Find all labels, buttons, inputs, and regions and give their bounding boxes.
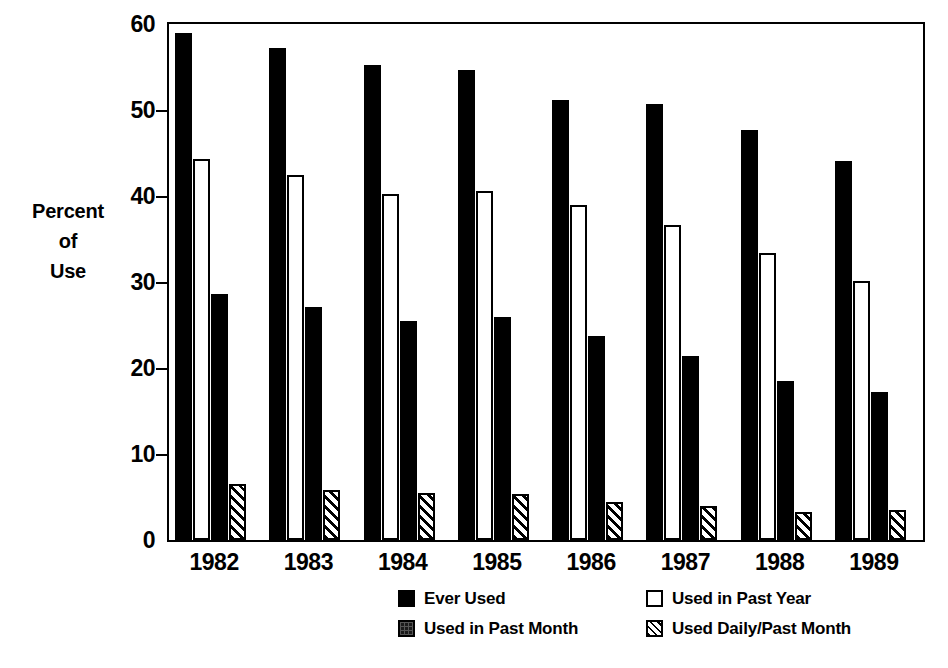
plot-inner xyxy=(169,24,923,540)
bar-1989-ever-used xyxy=(835,161,852,540)
y-axis-label-40: 40 xyxy=(85,185,155,208)
y-axis-label-0: 0 xyxy=(85,529,155,552)
bar-1989-used-in-past-month xyxy=(871,392,888,540)
legend-swatch-icon xyxy=(398,620,415,637)
y-axis-tick-40 xyxy=(156,196,169,198)
legend-swatch-icon xyxy=(398,590,415,607)
bar-1982-used-daily-past-month xyxy=(229,484,246,540)
x-axis-label-1983: 1983 xyxy=(261,548,355,576)
bar-1984-used-in-past-month xyxy=(400,321,417,540)
bar-group-1984 xyxy=(364,24,435,540)
bar-group-1989 xyxy=(835,24,906,540)
bar-1985-used-in-past-month xyxy=(494,317,511,540)
legend-label: Used Daily/Past Month xyxy=(672,620,851,637)
bar-1983-used-daily-past-month xyxy=(323,490,340,540)
bar-1987-used-in-past-month xyxy=(682,356,699,540)
bar-group-1987 xyxy=(646,24,717,540)
y-axis-tick-labels: 0102030405060 xyxy=(79,22,155,542)
y-axis-label-50: 50 xyxy=(85,99,155,122)
y-axis-tick-20 xyxy=(156,368,169,370)
bar-1984-used-in-past-year xyxy=(382,194,399,540)
legend-swatch-icon xyxy=(646,590,663,607)
x-axis-label-1989: 1989 xyxy=(827,548,921,576)
bar-1986-used-in-past-month xyxy=(588,336,605,540)
chart-legend: Ever UsedUsed in Past MonthUsed in Past … xyxy=(398,590,918,652)
y-axis-label-20: 20 xyxy=(85,357,155,380)
bar-group-1985 xyxy=(458,24,529,540)
bar-1983-used-in-past-month xyxy=(305,307,322,540)
bar-1983-ever-used xyxy=(269,48,286,540)
bar-1988-used-in-past-year xyxy=(759,253,776,540)
bar-1984-used-daily-past-month xyxy=(418,493,435,540)
x-axis-label-1985: 1985 xyxy=(450,548,544,576)
legend-label: Used in Past Year xyxy=(672,590,811,607)
y-axis-tick-50 xyxy=(156,110,169,112)
bar-1989-used-in-past-year xyxy=(853,281,870,540)
bar-1989-used-daily-past-month xyxy=(889,510,906,540)
legend-label: Ever Used xyxy=(424,590,505,607)
bar-1985-used-in-past-year xyxy=(476,191,493,540)
bar-group-1986 xyxy=(552,24,623,540)
x-axis-label-1988: 1988 xyxy=(733,548,827,576)
bar-1984-ever-used xyxy=(364,65,381,540)
bar-1985-used-daily-past-month xyxy=(512,494,529,540)
x-axis-label-1986: 1986 xyxy=(544,548,638,576)
legend-swatch-icon xyxy=(646,620,663,637)
bar-1988-used-daily-past-month xyxy=(795,512,812,540)
bar-1982-used-in-past-year xyxy=(193,159,210,540)
x-axis-label-1984: 1984 xyxy=(356,548,450,576)
x-axis-label-1987: 1987 xyxy=(638,548,732,576)
bar-group-1983 xyxy=(269,24,340,540)
y-axis-label-60: 60 xyxy=(85,13,155,36)
y-axis-tick-10 xyxy=(156,454,169,456)
legend-label: Used in Past Month xyxy=(424,620,578,637)
plot-area xyxy=(167,22,925,542)
legend-item-used-in-past-year[interactable]: Used in Past Year xyxy=(646,590,811,607)
bar-1985-ever-used xyxy=(458,70,475,540)
bar-chart-figure: Percent of Use 0102030405060 19821983198… xyxy=(0,0,948,668)
bar-group-1988 xyxy=(741,24,812,540)
bar-1986-ever-used xyxy=(552,100,569,540)
bar-1986-used-daily-past-month xyxy=(606,502,623,540)
bar-group-1982 xyxy=(175,24,246,540)
bar-1982-used-in-past-month xyxy=(211,294,228,540)
bar-1986-used-in-past-year xyxy=(570,205,587,540)
y-axis-label-30: 30 xyxy=(85,271,155,294)
y-axis-label-10: 10 xyxy=(85,443,155,466)
legend-item-used-daily-past-month[interactable]: Used Daily/Past Month xyxy=(646,620,851,637)
bar-1988-used-in-past-month xyxy=(777,381,794,540)
x-axis-label-1982: 1982 xyxy=(167,548,261,576)
bar-1983-used-in-past-year xyxy=(287,175,304,541)
bar-1988-ever-used xyxy=(741,130,758,540)
y-axis-tick-30 xyxy=(156,282,169,284)
bar-1987-used-daily-past-month xyxy=(700,506,717,540)
bar-1987-used-in-past-year xyxy=(664,225,681,540)
x-axis-tick-labels: 19821983198419851986198719881989 xyxy=(167,548,925,582)
bar-1987-ever-used xyxy=(646,104,663,540)
legend-item-ever-used[interactable]: Ever Used xyxy=(398,590,505,607)
bar-1982-ever-used xyxy=(175,33,192,540)
legend-item-used-in-past-month[interactable]: Used in Past Month xyxy=(398,620,578,637)
